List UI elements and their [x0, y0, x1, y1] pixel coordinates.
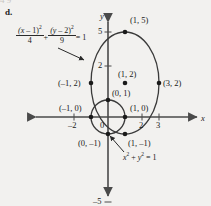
ellipse-equation-term-2: (y – 2)2 9	[48, 26, 76, 45]
y-tick-label-5: 5	[98, 27, 102, 36]
point-label-0-1: (0, 1)	[112, 89, 130, 98]
ellipse-equation-num-2: (y – 2)2	[48, 26, 76, 36]
ellipse-equation: (x – 1)2 4 + (y – 2)2 9 = 1	[16, 26, 86, 45]
point-label--1-2: (–1, 2)	[58, 79, 81, 88]
x-tick-label-3: 3	[156, 121, 160, 130]
ellipse-equation-leader-arrow	[58, 48, 84, 60]
x-axis-label: x	[201, 114, 205, 123]
circle-equation: x2 + y2 = 1	[123, 154, 157, 162]
point-marker	[106, 98, 111, 103]
point-marker	[157, 81, 162, 86]
ellipse-equation-equals: = 1	[76, 33, 87, 42]
ellipse-equation-den-2: 9	[48, 36, 76, 45]
point-marker	[89, 81, 94, 86]
point-label-1-5: (1, 5)	[130, 16, 148, 25]
point-marker	[123, 132, 128, 137]
point-label-1-2: (1, 2)	[118, 70, 136, 79]
point-label-0--1: (0, –1)	[78, 139, 101, 148]
point-marker	[123, 30, 128, 35]
point-label-1--1: (1, –1)	[128, 139, 151, 148]
ellipse-equation-num-1: (x – 1)2	[16, 26, 44, 36]
y-axis-label: y	[100, 12, 104, 21]
circle-equation-plus: +	[131, 153, 136, 162]
y-tick-label-2: 2	[98, 61, 102, 70]
ellipse-equation-den-1: 4	[16, 36, 44, 45]
point-marker	[89, 115, 94, 120]
x-tick-label--2: –2	[68, 121, 77, 130]
ellipse-equation-term-1: (x – 1)2 4	[16, 26, 44, 45]
point-label-1-0: (1, 0)	[130, 104, 148, 113]
point-marker	[123, 81, 128, 86]
point-label--1-0: (–1, 0)	[59, 104, 82, 113]
point-label-3-2: (3, 2)	[163, 79, 181, 88]
circle-equation-equals: = 1	[146, 153, 157, 162]
x-tick-label-0: 0	[100, 121, 104, 130]
circle-equation-leader-arrow	[110, 136, 124, 152]
x-tick-label-2: 2	[139, 121, 143, 130]
y-tick-label--5: –5	[93, 197, 102, 206]
point-marker	[106, 132, 111, 137]
point-marker	[123, 115, 128, 120]
